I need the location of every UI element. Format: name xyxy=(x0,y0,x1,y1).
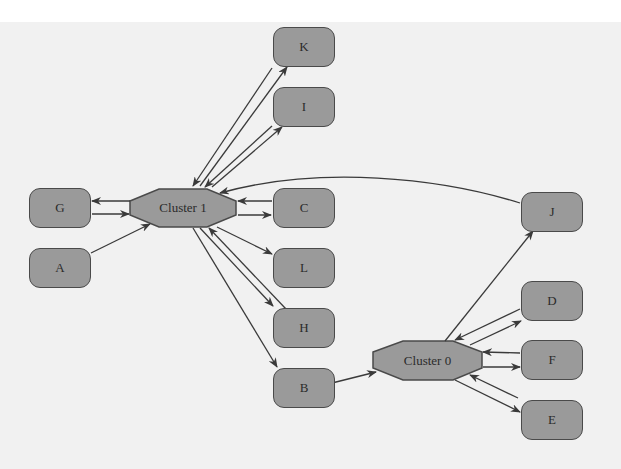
node-d[interactable]: D xyxy=(521,281,583,321)
cluster-0-label: Cluster 0 xyxy=(373,341,482,380)
node-b[interactable]: B xyxy=(273,368,335,408)
node-i[interactable]: I xyxy=(273,87,335,127)
node-j[interactable]: J xyxy=(521,192,583,232)
node-g[interactable]: G xyxy=(29,188,91,228)
node-h[interactable]: H xyxy=(273,308,335,348)
node-l[interactable]: L xyxy=(273,248,335,288)
node-k[interactable]: K xyxy=(273,27,335,67)
cluster-1-label: Cluster 1 xyxy=(130,189,236,227)
node-a[interactable]: A xyxy=(29,248,91,288)
graph-canvas: Cluster 1 Cluster 0 K I G C A L H B J D … xyxy=(0,0,621,469)
node-f[interactable]: F xyxy=(521,340,583,380)
node-c[interactable]: C xyxy=(273,188,335,228)
node-e[interactable]: E xyxy=(521,400,583,440)
